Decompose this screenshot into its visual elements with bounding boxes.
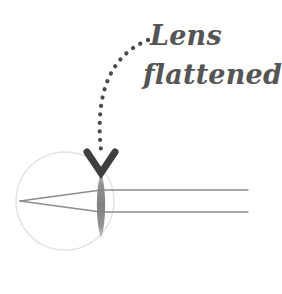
annotation-line-2: flattened xyxy=(141,59,282,90)
lens-flattened-diagram: Lens flattened xyxy=(0,0,282,294)
diagram-canvas: Lens flattened xyxy=(0,0,282,294)
annotation-line-1: Lens xyxy=(149,20,222,51)
